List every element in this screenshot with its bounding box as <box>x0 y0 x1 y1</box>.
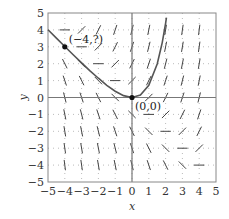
slope-segment <box>97 126 100 136</box>
y-tick-label: −1 <box>28 108 44 121</box>
x-tick-labels: −5−4−3−2−1012345 <box>40 185 220 198</box>
y-tick-label: 3 <box>37 41 44 54</box>
slope-segment <box>114 126 117 136</box>
slope-segment <box>81 143 83 153</box>
y-tick-labels: −5−4−3−2−1012345 <box>28 7 44 189</box>
y-tick-label: 4 <box>37 24 44 37</box>
x-tick-label: 2 <box>162 185 169 198</box>
slope-segment <box>114 143 117 153</box>
slope-segment <box>180 110 185 119</box>
y-tick-label: 2 <box>37 58 44 71</box>
slope-segment <box>199 25 200 35</box>
slope-segment <box>179 161 186 168</box>
y-tick-label: −2 <box>28 125 44 138</box>
y-tick-label: 0 <box>37 92 44 105</box>
x-tick-label: 1 <box>145 185 152 198</box>
y-tick-label: −3 <box>28 142 44 155</box>
slope-segment <box>147 59 150 69</box>
y-tick-label: 5 <box>37 7 44 20</box>
x-tick-label: −2 <box>90 185 106 198</box>
point-label: (0,0) <box>135 100 161 113</box>
y-tick-label: −4 <box>28 159 44 172</box>
slope-segment <box>64 160 65 170</box>
x-axis-label: x <box>129 200 136 213</box>
marked-point <box>129 95 134 100</box>
marked-point <box>62 44 67 49</box>
x-tick-label: −4 <box>57 185 73 198</box>
point-label: (−4,?) <box>69 33 103 46</box>
slope-segment <box>64 143 65 153</box>
slope-segment <box>196 145 203 152</box>
slope-segment <box>81 126 83 136</box>
x-tick-label: 4 <box>196 185 203 198</box>
slope-segment <box>164 59 167 69</box>
slope-segment <box>146 144 151 153</box>
x-tick-label: 3 <box>179 185 186 198</box>
y-axis-label: y <box>17 94 30 102</box>
slope-segment <box>64 109 66 119</box>
y-tick-label: −5 <box>28 176 44 189</box>
y-tick-label: 1 <box>37 75 44 88</box>
marked-points: (0,0)(−4,?) <box>62 33 161 113</box>
x-tick-label: −1 <box>107 185 123 198</box>
slope-segment <box>97 109 100 119</box>
slope-segment <box>97 143 99 153</box>
slope-segment <box>112 60 119 67</box>
x-tick-label: 0 <box>129 185 136 198</box>
x-tick-label: 5 <box>213 185 220 198</box>
slope-segment <box>80 109 83 119</box>
slope-segment <box>164 76 167 86</box>
slope-segment <box>64 126 66 136</box>
slope-field-chart: (0,0)(−4,?) −5−4−3−2−1012345 −5−4−3−2−10… <box>0 0 229 219</box>
x-tick-label: −3 <box>73 185 89 198</box>
